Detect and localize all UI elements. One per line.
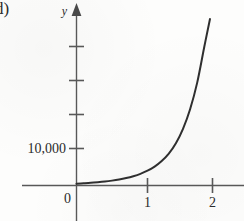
exponential-curve <box>77 19 210 184</box>
origin-label: 0 <box>64 191 71 206</box>
exponential-graph: y 10,000 0 1 2 <box>0 0 244 221</box>
y-tick-label-10000: 10,000 <box>28 141 67 156</box>
x-tick-label-1: 1 <box>144 195 151 210</box>
y-axis-arrowhead <box>72 3 82 16</box>
y-axis-label: y <box>61 4 68 18</box>
x-tick-label-2: 2 <box>209 195 216 210</box>
figure-panel: d) y 10,000 0 1 2 <box>0 0 244 221</box>
